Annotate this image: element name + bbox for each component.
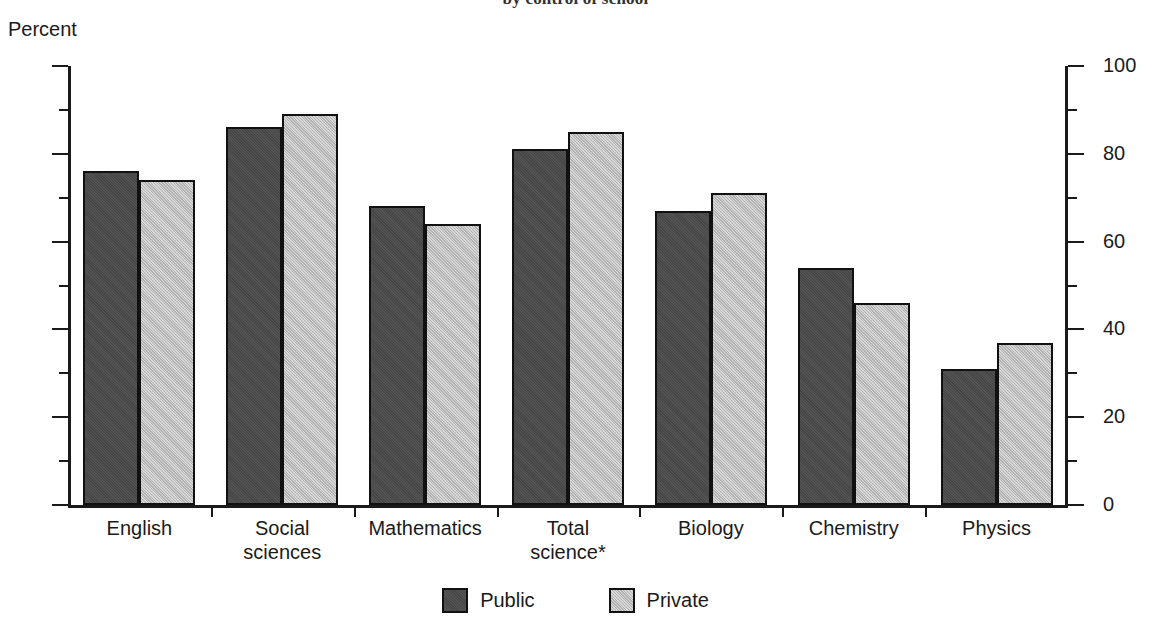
y-tick-right-40: [1068, 328, 1084, 330]
bar-public-english[interactable]: [83, 171, 139, 505]
legend-swatch-private-icon: [609, 588, 635, 613]
x-category-label-line: English: [68, 516, 211, 540]
x-category-label-physics: Physics: [925, 516, 1068, 540]
bar-private-total-science[interactable]: [568, 132, 624, 505]
y-tick-left-60: [52, 241, 68, 243]
x-category-label-line: Biology: [639, 516, 782, 540]
x-category-label-mathematics: Mathematics: [354, 516, 497, 540]
legend-label-public: Public: [480, 589, 534, 612]
bar-public-social-sciences[interactable]: [226, 127, 282, 505]
y-axis-right-label-20: 20: [1103, 406, 1125, 426]
y-axis-right-label-100: 100: [1103, 55, 1136, 75]
y-axis-left-line: [68, 66, 71, 508]
x-category-label-total-science: Totalscience*: [497, 516, 640, 564]
x-axis-category-labels: EnglishSocialsciencesMathematicsTotalsci…: [68, 516, 1068, 576]
y-tick-left-20: [52, 416, 68, 418]
legend-label-private: Private: [647, 589, 709, 612]
legend-swatch-public-icon: [442, 588, 468, 613]
y-axis-right-label-40: 40: [1103, 318, 1125, 338]
y-tick-right-100: [1068, 65, 1084, 67]
y-tick-left-100: [52, 65, 68, 67]
y-minor-tick-left-70: [59, 197, 68, 199]
x-category-label-line: science*: [497, 540, 640, 564]
y-minor-tick-left-50: [59, 285, 68, 287]
x-category-label-biology: Biology: [639, 516, 782, 540]
chart-legend: Public Private: [0, 588, 1151, 613]
y-minor-tick-right-90: [1068, 109, 1077, 111]
x-category-label-english: English: [68, 516, 211, 540]
y-axis-right-label-0: 0: [1103, 494, 1114, 514]
bar-private-physics[interactable]: [997, 343, 1053, 505]
bar-public-mathematics[interactable]: [369, 206, 425, 505]
y-minor-tick-left-90: [59, 109, 68, 111]
y-tick-left-80: [52, 153, 68, 155]
y-tick-right-0: [1068, 504, 1084, 506]
y-minor-tick-right-70: [1068, 197, 1077, 199]
x-category-label-line: Chemistry: [782, 516, 925, 540]
bar-public-physics[interactable]: [941, 369, 997, 505]
x-category-label-line: Physics: [925, 516, 1068, 540]
y-minor-tick-left-30: [59, 372, 68, 374]
y-minor-tick-left-10: [59, 460, 68, 462]
bar-private-biology[interactable]: [711, 193, 767, 505]
y-tick-right-80: [1068, 153, 1084, 155]
x-category-label-chemistry: Chemistry: [782, 516, 925, 540]
y-minor-tick-right-30: [1068, 372, 1077, 374]
bar-private-chemistry[interactable]: [854, 303, 910, 505]
bar-public-total-science[interactable]: [512, 149, 568, 505]
x-category-label-line: Total: [497, 516, 640, 540]
x-category-label-line: Social: [211, 516, 354, 540]
bar-public-chemistry[interactable]: [798, 268, 854, 505]
legend-item-public[interactable]: Public: [442, 588, 534, 613]
x-category-label-social-sciences: Socialsciences: [211, 516, 354, 564]
y-minor-tick-right-50: [1068, 285, 1077, 287]
y-tick-left-0: [52, 504, 68, 506]
y-axis-unit-label: Percent: [8, 18, 77, 41]
y-tick-right-20: [1068, 416, 1084, 418]
legend-item-private[interactable]: Private: [609, 588, 709, 613]
bar-private-english[interactable]: [139, 180, 195, 505]
bar-public-biology[interactable]: [655, 211, 711, 505]
x-category-label-line: sciences: [211, 540, 354, 564]
bar-private-mathematics[interactable]: [425, 224, 481, 505]
y-minor-tick-right-10: [1068, 460, 1077, 462]
y-tick-left-40: [52, 328, 68, 330]
chart-title: by control of school: [0, 0, 1151, 9]
x-axis-line: [68, 505, 1068, 508]
plot-area: 002020404060608080100100: [68, 66, 1068, 505]
y-tick-right-60: [1068, 241, 1084, 243]
x-category-label-line: Mathematics: [354, 516, 497, 540]
y-axis-right-label-60: 60: [1103, 231, 1125, 251]
y-axis-right-line: [1065, 66, 1068, 508]
y-axis-right-label-80: 80: [1103, 143, 1125, 163]
bar-private-social-sciences[interactable]: [282, 114, 338, 505]
